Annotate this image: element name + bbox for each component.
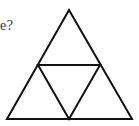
triangle-subdivision-figure [0, 0, 139, 126]
inner-inverted-triangle [38, 65, 100, 119]
